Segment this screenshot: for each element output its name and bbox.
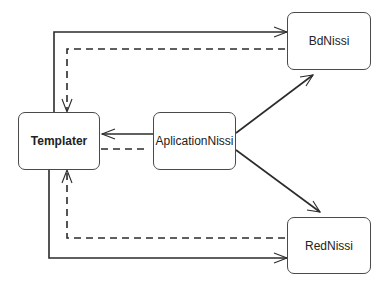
- node-aplicationnissi[interactable]: AplicationNissi: [153, 112, 236, 170]
- node-bdnissi[interactable]: BdNissi: [287, 12, 371, 70]
- edge-templater-to-rednissi: [49, 170, 287, 263]
- edge-templater-to-bdnissi: [54, 27, 287, 112]
- diagram-canvas: Templater AplicationNissi BdNissi RedNis…: [0, 0, 387, 287]
- node-label: AplicationNissi: [155, 134, 233, 148]
- edge-bdnissi-to-templater: [62, 49, 285, 112]
- edge-app-to-templater: [102, 129, 153, 139]
- edge-app-to-bdnissi: [236, 75, 313, 133]
- node-rednissi[interactable]: RedNissi: [287, 217, 371, 274]
- node-templater[interactable]: Templater: [18, 112, 100, 170]
- edge-rednissi-to-templater: [62, 170, 285, 238]
- node-label: RedNissi: [305, 239, 353, 253]
- edge-app-to-rednissi: [236, 150, 320, 212]
- node-label: Templater: [31, 134, 87, 148]
- node-label: BdNissi: [309, 34, 350, 48]
